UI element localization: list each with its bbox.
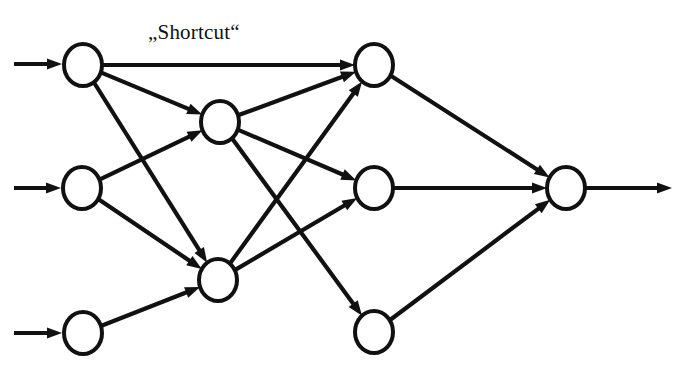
- node-h2[interactable]: [199, 259, 237, 301]
- edge-input2-hidden2-shaft: [98, 199, 191, 262]
- node-t1[interactable]: [355, 44, 393, 86]
- edge-input2-hidden1-shaft: [99, 136, 190, 180]
- edge-hidden1-third3-shaft: [232, 138, 354, 305]
- node-o1[interactable]: [547, 167, 585, 209]
- node-i3[interactable]: [64, 312, 102, 354]
- node-i2[interactable]: [63, 167, 101, 209]
- neural-network-diagram: „Shortcut“: [0, 0, 685, 382]
- input-arrow-3-head: [47, 327, 62, 338]
- node-i1[interactable]: [64, 44, 102, 86]
- edge-hidden1-third1-shaft: [238, 76, 344, 115]
- edge-hidden1-third1-head: [340, 72, 356, 83]
- edge-third3-output-shaft: [390, 208, 540, 321]
- edges-group: [94, 59, 550, 326]
- edge-hidden1-third2-head: [340, 169, 356, 180]
- input-arrow-2-head: [46, 182, 61, 193]
- output-arrow-head: [657, 182, 672, 193]
- edge-third2-output-head: [532, 182, 547, 193]
- edge-input3-hidden2-head: [184, 287, 200, 298]
- edge-hidden2-third2-head: [341, 198, 357, 210]
- edge-input2-hidden1-head: [187, 130, 203, 142]
- network-graph-canvas: [0, 0, 685, 382]
- node-h1[interactable]: [201, 101, 239, 143]
- input-arrow-1-head: [47, 58, 62, 69]
- edge-input3-hidden2-shaft: [101, 292, 188, 326]
- edge-third1-output-shaft: [390, 76, 538, 171]
- edge-input1-hidden1-shaft: [101, 72, 190, 109]
- shortcut-edge-head: [340, 59, 355, 70]
- node-t2[interactable]: [355, 167, 393, 209]
- shortcut-label: „Shortcut“: [148, 22, 240, 43]
- edge-input1-hidden1-head: [186, 104, 202, 115]
- node-t3[interactable]: [355, 311, 393, 353]
